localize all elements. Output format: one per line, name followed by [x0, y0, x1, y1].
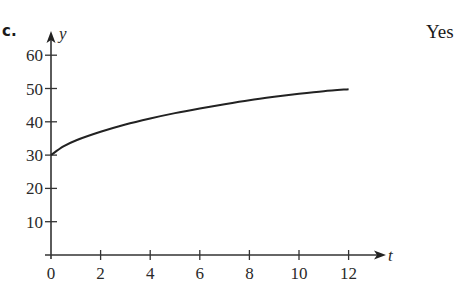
- axes: ty: [45, 24, 394, 265]
- y-axis-label: y: [57, 24, 67, 43]
- x-axis-label: t: [388, 246, 394, 265]
- y-tick-label: 20: [26, 179, 43, 198]
- x-tick-label: 8: [245, 264, 254, 283]
- line-chart: ty 024681012102030405060: [0, 0, 460, 300]
- x-tick-label: 6: [196, 264, 205, 283]
- x-tick-label: 4: [146, 264, 155, 283]
- y-tick-label: 10: [26, 213, 43, 232]
- x-tick-label: 0: [47, 264, 56, 283]
- y-tick-label: 60: [26, 46, 43, 65]
- data-curve: [51, 89, 349, 155]
- y-tick-label: 40: [26, 113, 43, 132]
- y-tick-label: 30: [26, 146, 43, 165]
- ticks: 024681012102030405060: [26, 46, 357, 283]
- x-tick-label: 12: [340, 264, 357, 283]
- y-tick-label: 50: [26, 80, 43, 99]
- x-tick-label: 10: [291, 264, 308, 283]
- x-tick-label: 2: [96, 264, 105, 283]
